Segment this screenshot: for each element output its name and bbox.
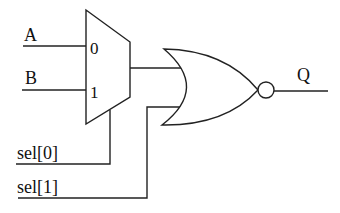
label-sel0: sel[0] <box>17 143 58 163</box>
label-a: A <box>24 25 37 45</box>
nor-inversion-bubble <box>258 82 274 98</box>
multiplexer <box>86 10 130 124</box>
circuit-diagram: A B 0 1 sel[0] sel[1] Q <box>0 0 340 213</box>
nor-gate <box>162 49 258 125</box>
mux-port-1-label: 1 <box>90 83 99 102</box>
label-q: Q <box>297 65 310 85</box>
label-sel1: sel[1] <box>17 177 58 197</box>
label-b: B <box>25 68 37 88</box>
mux-port-0-label: 0 <box>90 39 99 58</box>
